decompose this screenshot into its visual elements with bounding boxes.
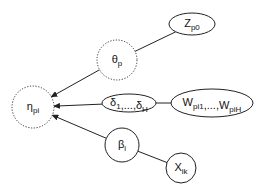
edge-x-to-beta bbox=[138, 151, 167, 162]
edge-delta-to-eta bbox=[54, 104, 102, 106]
edge-z-to-theta bbox=[135, 32, 176, 52]
node-beta: βi bbox=[105, 128, 139, 162]
node-z: Zp0 bbox=[169, 13, 215, 35]
diagram-canvas: ηpiθpZp0δ1,...,δHWpi1,...,WpiHβiXik bbox=[0, 0, 265, 192]
nodes-layer: ηpiθpZp0δ1,...,δHWpi1,...,WpiHβiXik bbox=[12, 13, 253, 183]
edge-theta-to-eta bbox=[51, 70, 99, 97]
node-delta: δ1,...,δH bbox=[102, 94, 156, 114]
node-theta: θp bbox=[97, 40, 137, 80]
edge-beta-to-eta bbox=[52, 115, 106, 138]
node-w: Wpi1,...,WpiH bbox=[171, 89, 253, 117]
node-eta: ηpi bbox=[12, 86, 54, 128]
node-x: Xik bbox=[166, 153, 196, 183]
